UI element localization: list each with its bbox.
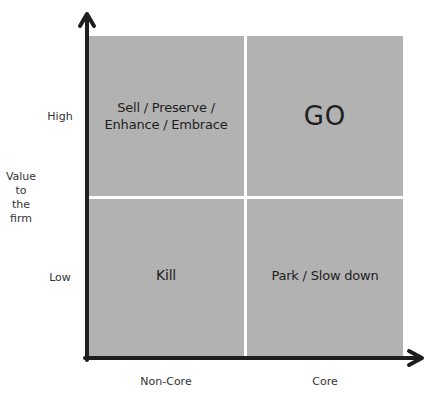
y-axis-title-line: the (2, 198, 40, 212)
x-axis-arrow (85, 351, 422, 365)
y-axis-arrow (80, 14, 94, 360)
axes (0, 0, 436, 395)
y-axis-title-line: firm (2, 212, 40, 226)
y-axis-high-label: High (40, 110, 80, 123)
x-axis-right-label: Core (285, 375, 365, 388)
y-axis-title-line: to (2, 184, 40, 198)
y-axis-low-label: Low (40, 271, 80, 284)
y-axis-title: Value to the firm (2, 170, 40, 226)
x-axis-left-label: Non-Core (126, 375, 206, 388)
y-axis-title-line: Value (2, 170, 40, 184)
